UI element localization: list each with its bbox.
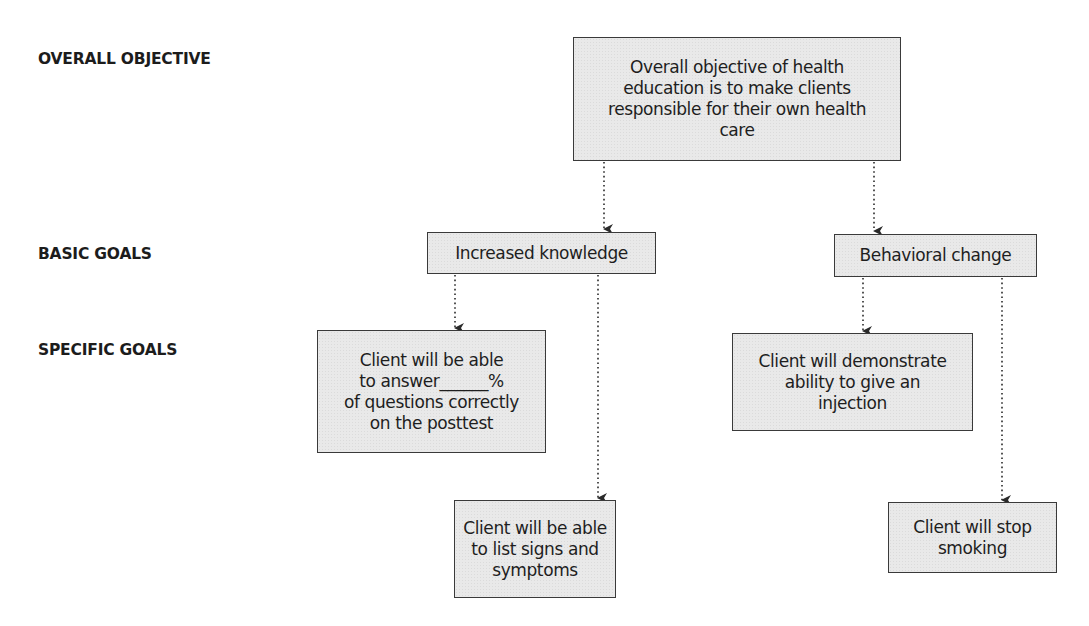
node-text-line: Overall objective of health	[608, 57, 866, 78]
node-list-signs-symptoms: Client will be able to list signs and sy…	[454, 500, 616, 598]
node-text-line: care	[608, 120, 866, 141]
node-text-line: of questions correctly	[344, 392, 519, 413]
node-text-line: smoking	[913, 538, 1031, 559]
node-text-line: ability to give an	[759, 372, 947, 393]
node-text-line: Client will demonstrate	[759, 351, 947, 372]
node-overall-objective: Overall objective of health education is…	[573, 37, 901, 161]
node-text-line: education is to make clients	[608, 78, 866, 99]
node-behavioral-change: Behavioral change	[834, 234, 1037, 277]
node-text-line: Increased knowledge	[455, 243, 628, 264]
node-text-line: injection	[759, 393, 947, 414]
node-text-line: symptoms	[463, 560, 607, 581]
node-increased-knowledge: Increased knowledge	[427, 232, 656, 274]
node-text-line: Client will be able	[463, 518, 607, 539]
node-answer-questions: Client will be able to answer______% of …	[317, 330, 546, 453]
node-text-line: responsible for their own health	[608, 99, 866, 120]
node-text-line: Client will be able	[344, 350, 519, 371]
level-label-overall-objective: OVERALL OBJECTIVE	[38, 50, 211, 68]
node-text-line: to answer______%	[344, 371, 519, 392]
node-text-line: Behavioral change	[860, 245, 1012, 266]
node-text-line: on the posttest	[344, 413, 519, 434]
node-stop-smoking: Client will stop smoking	[888, 502, 1057, 573]
node-text-line: Client will stop	[913, 517, 1031, 538]
node-text-line: to list signs and	[463, 539, 607, 560]
level-label-specific-goals: SPECIFIC GOALS	[38, 341, 177, 359]
node-give-injection: Client will demonstrate ability to give …	[732, 333, 973, 431]
level-label-basic-goals: BASIC GOALS	[38, 245, 152, 263]
